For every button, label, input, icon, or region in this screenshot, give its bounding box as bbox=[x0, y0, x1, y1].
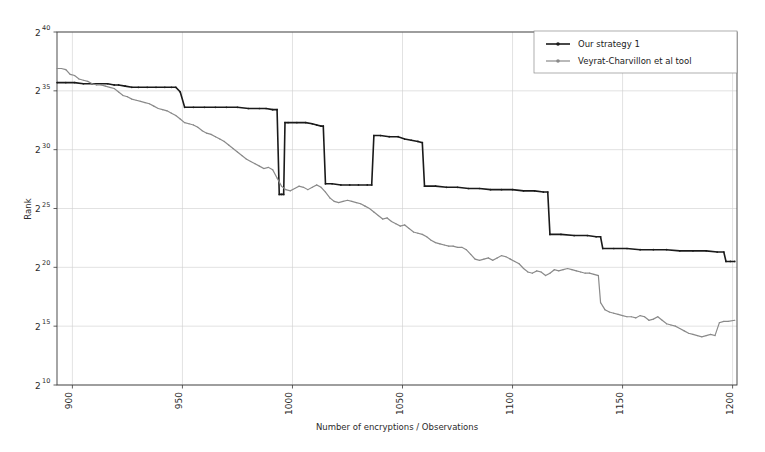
series-marker bbox=[446, 186, 448, 188]
y-tick-exponent: 20 bbox=[42, 259, 50, 267]
series-marker bbox=[716, 251, 718, 253]
series-marker bbox=[180, 118, 181, 119]
series-marker bbox=[153, 106, 154, 107]
series-marker bbox=[338, 202, 339, 203]
series-marker bbox=[536, 270, 537, 271]
series-marker bbox=[730, 261, 732, 263]
series-marker bbox=[563, 269, 564, 270]
series-marker bbox=[193, 124, 194, 125]
series-marker bbox=[158, 108, 159, 109]
series-marker bbox=[397, 136, 399, 138]
chart-figure: 210215220225230235240 900950100010501100… bbox=[0, 0, 765, 452]
series-marker bbox=[631, 316, 632, 317]
series-marker bbox=[571, 269, 572, 270]
chart-legend[interactable]: Our strategy 1Veyrat-Charvillon et al to… bbox=[534, 31, 737, 73]
y-tick-label: 2 bbox=[35, 28, 41, 38]
series-marker bbox=[373, 135, 375, 137]
series-marker bbox=[131, 98, 132, 99]
series-marker bbox=[600, 236, 602, 238]
series-marker bbox=[146, 86, 148, 88]
series-marker bbox=[410, 139, 412, 141]
series-marker bbox=[114, 88, 115, 89]
series-marker bbox=[83, 83, 85, 85]
series-marker bbox=[409, 228, 410, 229]
series-marker bbox=[171, 86, 173, 88]
series-marker bbox=[74, 75, 75, 76]
series-marker bbox=[56, 82, 58, 84]
series-marker bbox=[250, 161, 251, 162]
series-marker bbox=[728, 321, 729, 322]
series-marker bbox=[325, 183, 327, 185]
series-marker bbox=[705, 250, 707, 252]
series-marker bbox=[155, 86, 157, 88]
y-tick-label: 2 bbox=[35, 322, 41, 332]
legend-label: Veyrat-Charvillon et al tool bbox=[578, 56, 692, 66]
series-marker bbox=[179, 91, 181, 93]
series-marker bbox=[640, 315, 641, 316]
series-marker bbox=[684, 330, 685, 331]
y-tick-exponent: 15 bbox=[42, 318, 50, 326]
series-marker bbox=[105, 86, 106, 87]
series-marker bbox=[136, 100, 137, 101]
series-marker bbox=[331, 183, 333, 185]
x-tick-label: 1100 bbox=[505, 392, 515, 415]
series-marker bbox=[349, 184, 351, 186]
series-marker bbox=[78, 78, 79, 79]
series-marker bbox=[228, 144, 229, 145]
series-marker bbox=[360, 203, 361, 204]
series-marker bbox=[56, 68, 57, 69]
series-marker bbox=[675, 326, 676, 327]
series-marker bbox=[626, 316, 627, 317]
series-marker bbox=[725, 261, 727, 263]
y-tick-exponent: 25 bbox=[42, 201, 50, 209]
series-marker bbox=[197, 127, 198, 128]
series-marker bbox=[444, 244, 445, 245]
series-marker bbox=[457, 186, 459, 188]
series-marker bbox=[351, 201, 352, 202]
series-marker bbox=[413, 231, 414, 232]
series-marker bbox=[598, 275, 599, 276]
series-marker bbox=[287, 122, 289, 124]
series-marker bbox=[648, 320, 649, 321]
series-marker bbox=[510, 259, 511, 260]
series-marker bbox=[585, 273, 586, 274]
series-marker bbox=[734, 261, 736, 263]
series-marker bbox=[312, 187, 313, 188]
series-marker bbox=[644, 316, 645, 317]
y-tick-label: 2 bbox=[35, 145, 41, 155]
series-marker bbox=[692, 334, 693, 335]
series-marker bbox=[475, 259, 476, 260]
series-marker bbox=[65, 69, 66, 70]
series-marker bbox=[453, 246, 454, 247]
series-marker bbox=[602, 248, 604, 250]
series-marker bbox=[593, 274, 594, 275]
series-marker bbox=[113, 84, 115, 86]
series-marker bbox=[497, 257, 498, 258]
legend-background bbox=[534, 31, 737, 73]
series-marker bbox=[576, 270, 577, 271]
series-marker bbox=[679, 250, 681, 252]
series-marker bbox=[483, 259, 484, 260]
series-marker bbox=[404, 224, 405, 225]
series-marker bbox=[284, 122, 286, 124]
series-marker bbox=[254, 163, 255, 164]
series-marker bbox=[492, 260, 493, 261]
series-marker bbox=[320, 187, 321, 188]
series-marker bbox=[609, 311, 610, 312]
series-marker bbox=[162, 109, 163, 110]
series-marker bbox=[468, 188, 470, 190]
series-marker bbox=[421, 142, 423, 144]
series-marker bbox=[364, 206, 365, 207]
series-marker bbox=[224, 141, 225, 142]
y-tick-exponent: 35 bbox=[42, 83, 50, 91]
series-marker bbox=[512, 189, 514, 191]
series-marker bbox=[70, 74, 71, 75]
series-marker bbox=[311, 123, 313, 125]
x-tick-label: 950 bbox=[174, 392, 184, 409]
series-marker bbox=[519, 263, 520, 264]
series-marker bbox=[549, 234, 551, 236]
series-marker bbox=[127, 96, 128, 97]
series-marker bbox=[488, 257, 489, 258]
series-marker bbox=[276, 109, 278, 111]
series-marker bbox=[285, 189, 286, 190]
